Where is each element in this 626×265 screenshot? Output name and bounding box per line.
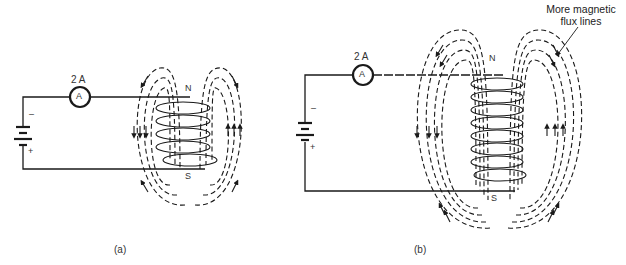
pole-north-a: N bbox=[185, 84, 192, 93]
flux-arrows-b bbox=[417, 45, 563, 222]
pole-south-b: S bbox=[491, 194, 497, 203]
flux-lines-b-right bbox=[508, 30, 582, 228]
flux-lines-a-right bbox=[195, 68, 241, 205]
caption-b: (b) bbox=[414, 245, 426, 255]
flux-lines-b-left bbox=[417, 30, 490, 228]
ammeter-symbol-a: A bbox=[76, 92, 82, 101]
solenoid-flux-diagram: 2 A A – + N S (a) 2 A A – + N S (b) More… bbox=[0, 0, 626, 265]
battery-minus-b: – bbox=[311, 104, 316, 113]
flux-lines-a-left bbox=[137, 68, 185, 205]
battery-minus-a: – bbox=[29, 110, 34, 119]
current-label-b: 2 A bbox=[354, 52, 368, 62]
circuit-a-wires bbox=[23, 97, 205, 169]
battery-a-icon bbox=[14, 127, 32, 145]
coil-a-icon bbox=[156, 102, 217, 166]
battery-b-icon bbox=[296, 123, 314, 140]
ammeter-symbol-b: A bbox=[359, 70, 365, 79]
pole-north-b: N bbox=[489, 54, 496, 63]
caption-a: (a) bbox=[114, 245, 126, 255]
annotation-line-2: flux lines bbox=[543, 15, 619, 27]
current-label-a: 2 A bbox=[71, 75, 85, 85]
battery-plus-a: + bbox=[28, 147, 33, 156]
panel-a bbox=[14, 68, 241, 205]
annotation-line-1: More magnetic bbox=[543, 3, 619, 15]
panel-b bbox=[296, 27, 582, 228]
battery-plus-b: + bbox=[310, 143, 315, 152]
diagram-canvas bbox=[0, 0, 626, 265]
pole-south-a: S bbox=[185, 172, 191, 181]
flux-annotation: More magnetic flux lines bbox=[543, 3, 619, 27]
